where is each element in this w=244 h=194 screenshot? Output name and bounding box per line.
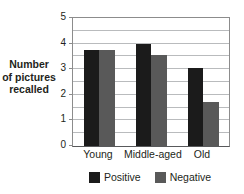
legend-entry-negative: Negative <box>155 172 211 183</box>
bar-negative-old <box>203 102 219 146</box>
y-tick-label: 3 <box>50 63 66 73</box>
bar-positive-middle-aged <box>136 44 152 146</box>
x-tick-label: Young <box>72 148 124 160</box>
y-tick-mark <box>69 17 72 18</box>
bar-negative-young <box>99 50 115 146</box>
y-tick-mark <box>69 43 72 44</box>
bar-chart-figure: Number of pictures recalled 012345 Young… <box>0 0 244 194</box>
legend-label: Positive <box>104 172 141 183</box>
y-tick-label: 4 <box>50 38 66 48</box>
chart-legend: PositiveNegative <box>72 172 228 183</box>
legend-swatch-positive <box>89 172 100 183</box>
y-tick-label: 2 <box>50 89 66 99</box>
x-tick-label: Middle-aged <box>124 148 176 160</box>
bars-layer <box>73 18 229 146</box>
y-tick-mark <box>69 145 72 146</box>
y-tick-label: 5 <box>50 12 66 22</box>
x-tick-label: Old <box>176 148 228 160</box>
legend-swatch-negative <box>155 172 166 183</box>
y-tick-label: 0 <box>50 140 66 150</box>
y-tick-mark <box>69 68 72 69</box>
y-tick-mark <box>69 119 72 120</box>
bar-negative-middle-aged <box>151 55 167 146</box>
bar-positive-old <box>188 68 204 146</box>
plot-area <box>72 17 230 147</box>
legend-entry-positive: Positive <box>89 172 141 183</box>
y-tick-mark <box>69 94 72 95</box>
legend-label: Negative <box>170 172 211 183</box>
y-tick-label: 1 <box>50 114 66 124</box>
bar-positive-young <box>84 50 100 146</box>
